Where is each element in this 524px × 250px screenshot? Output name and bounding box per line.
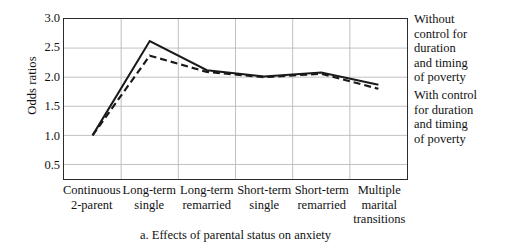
legend-label-line: for duration [414, 103, 522, 118]
figure-panel: Odds ratios 3.02.52.01.51.00.5 Continuou… [0, 0, 524, 250]
plot-area [63, 18, 408, 180]
legend-label-line: of poverty [414, 70, 522, 85]
y-axis-tick-labels: 3.02.52.01.51.00.5 [26, 0, 60, 250]
legend-label-line: With control [414, 88, 522, 103]
legend-label-line: of poverty [414, 132, 522, 147]
x-tick-label: Multiplemaritaltransitions [345, 183, 415, 227]
series-line [93, 56, 379, 136]
legend-label-line: control for [414, 27, 522, 42]
y-tick-label: 3.0 [26, 12, 60, 24]
y-tick-label: 2.5 [26, 41, 60, 53]
y-tick-label: 0.5 [26, 159, 60, 171]
legend-label-line: and timing [414, 117, 522, 132]
series-line [93, 41, 379, 135]
legend-item-with-control: With controlfor durationand timingof pov… [414, 88, 522, 146]
legend-item-without-control: Withoutcontrol fordurationand timingof p… [414, 12, 522, 85]
y-tick-label: 1.5 [26, 100, 60, 112]
y-tick-label: 1.0 [26, 130, 60, 142]
figure-caption: a. Effects of parental status on anxiety [63, 228, 408, 243]
y-tick-label: 2.0 [26, 71, 60, 83]
series-lines [64, 19, 407, 179]
legend-label-line: and timing [414, 56, 522, 71]
legend-label-line: Without [414, 12, 522, 27]
legend-label-line: duration [414, 41, 522, 56]
